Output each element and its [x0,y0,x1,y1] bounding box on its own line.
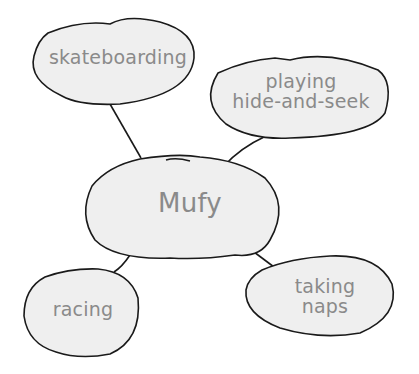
connector-racing [114,255,130,272]
node-hide-and-seek-line2: hide-and-seek [212,92,390,112]
node-racing-label: racing [30,300,136,320]
node-naps-line1: taking [255,277,395,297]
node-naps-line2: naps [255,297,395,317]
node-hide-and-seek-label: playing hide-and-seek [212,72,390,112]
node-skateboarding-label: skateboarding [44,48,192,68]
node-hide-and-seek-line1: playing [212,72,390,92]
center-label: Mufy [100,190,280,217]
connector-skateboarding [110,104,141,158]
node-naps-label: taking naps [255,277,395,317]
